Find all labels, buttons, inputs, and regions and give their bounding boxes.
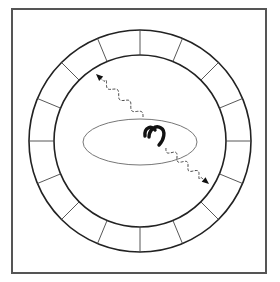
ring-divider [219, 174, 242, 184]
wavy-arrow-upper-left [100, 78, 143, 117]
ring-divider [62, 202, 80, 220]
diagram-canvas [0, 0, 280, 282]
segmented-ring [29, 30, 251, 252]
orbit-ellipse [83, 119, 197, 165]
ring-divider [98, 38, 108, 61]
wavy-arrow-lower-right [166, 148, 205, 180]
arrowhead-icon [96, 74, 103, 81]
ring-divider [201, 202, 219, 220]
ring-divider [37, 99, 60, 109]
ring-divider [219, 99, 242, 109]
horseshoe-magnet-icon [145, 127, 164, 145]
diagram-svg [0, 0, 280, 282]
ring-divider [62, 63, 80, 81]
ring-divider [37, 174, 60, 184]
ring-segment-dividers [29, 30, 251, 252]
ring-divider [173, 38, 183, 61]
ring-divider [173, 220, 183, 243]
ring-divider [98, 220, 108, 243]
ring-inner-circle [54, 55, 226, 227]
ring-divider [201, 63, 219, 81]
